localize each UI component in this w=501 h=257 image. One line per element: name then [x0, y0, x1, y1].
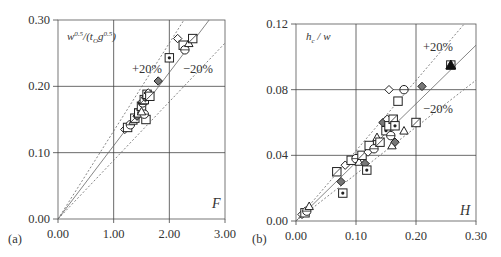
y-tick-label: 0.12 [266, 17, 288, 31]
plus-20-annotation: +20% [423, 40, 453, 54]
x-tick-label: 0.00 [47, 227, 69, 241]
x-axis-label: H [459, 203, 471, 218]
minus-20-annotation: −20% [423, 102, 453, 116]
data-point [337, 177, 345, 185]
x-tick-label: 2.00 [158, 227, 180, 241]
y-tick-label: 0.00 [28, 212, 50, 226]
data-point [305, 202, 313, 210]
y-tick-label: 0.10 [28, 146, 50, 160]
x-tick-label: 0.30 [465, 229, 487, 243]
y-tick-label: 0.04 [266, 148, 289, 162]
x-tick-label: 3.00 [214, 227, 236, 241]
minus-20-annotation: −20% [183, 62, 213, 76]
panel-a: 0.001.002.003.000.000.100.200.30(a)w0.5/… [8, 0, 236, 246]
data-point [154, 77, 162, 85]
data-point [400, 127, 408, 135]
x-tick-label: 0.20 [405, 229, 427, 243]
panel-b: 0.000.100.200.300.000.040.080.12(b)hc / … [252, 10, 487, 246]
x-tick-label: 0.00 [285, 229, 307, 243]
figure: 0.001.002.003.000.000.100.200.30(a)w0.5/… [0, 0, 501, 257]
x-tick-label: 1.00 [103, 227, 125, 241]
y-tick-label: 0.30 [28, 13, 50, 27]
x-axis-label: F [211, 196, 221, 211]
panel-label: (a) [8, 232, 22, 246]
data-point [394, 97, 402, 105]
panel-label: (b) [252, 232, 267, 246]
y-axis-label: w0.5/(tOg0.5) [67, 30, 116, 45]
plus-20-annotation: +20% [132, 62, 162, 76]
y-tick-label: 0.08 [266, 83, 288, 97]
y-axis-label: hc / w [306, 30, 331, 45]
y-tick-label: 0.00 [266, 214, 288, 228]
data-point [385, 85, 393, 93]
x-tick-label: 0.10 [345, 229, 367, 243]
y-tick-label: 0.20 [28, 79, 50, 93]
